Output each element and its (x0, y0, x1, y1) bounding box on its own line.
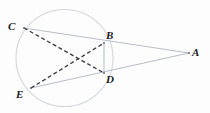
geometry-figure: C B A D E (0, 0, 210, 113)
vertex-dot-a (188, 52, 190, 54)
vertex-dot-d (103, 72, 105, 74)
point-label-d: D (106, 74, 114, 85)
chord-e-b (31, 43, 104, 88)
vertex-dot-e (30, 87, 32, 89)
vertex-dot-c (23, 27, 25, 29)
point-label-e: E (16, 89, 23, 100)
circle-outline (16, 10, 113, 107)
vertex-dot-b (103, 42, 105, 44)
chord-c-d (24, 28, 104, 73)
point-label-c: C (8, 21, 15, 32)
point-label-b: B (106, 30, 113, 41)
point-label-a: A (192, 47, 199, 58)
figure-canvas (0, 0, 210, 113)
